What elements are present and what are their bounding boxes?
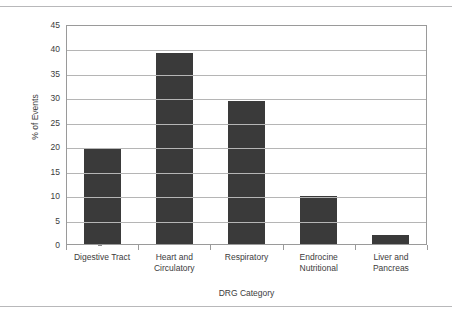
x-category-label-line: Digestive Tract [67,252,137,263]
x-axis-title: DRG Category [66,288,427,298]
gridline [67,99,426,100]
x-tick-mark [283,245,284,250]
gridline [67,75,426,76]
x-category-label-line: Liver and [356,252,426,263]
y-tick-label: 45 [36,21,60,30]
y-tick-label: 35 [36,69,60,78]
x-category-label: EndrocineNutritional [283,252,355,274]
y-tick-label: 40 [36,45,60,54]
x-category-label-line: Pancreas [356,263,426,274]
y-tick-label: 15 [36,167,60,176]
bar[interactable] [372,235,409,244]
x-tick-mark [210,245,211,250]
gridline [67,148,426,149]
x-category-label-line: Nutritional [284,263,354,274]
y-tick-label: 5 [36,216,60,225]
x-category-label: Heart andCirculatory [138,252,210,274]
x-tick-mark [66,245,67,250]
x-axis-tick-marks [66,245,427,250]
y-tick-label: 30 [36,94,60,103]
y-tick-label: 20 [36,143,60,152]
x-category-label-line: Respiratory [211,252,281,263]
x-category-label-line: Endrocine [284,252,354,263]
x-category-label-line: Heart and [139,252,209,263]
bar-slot [282,26,354,244]
bar-slot [211,26,283,244]
x-category-label: Respiratory [210,252,282,274]
x-category-label: Liver andPancreas [355,252,427,274]
x-tick-mark [427,245,428,250]
y-tick-label: 10 [36,192,60,201]
page-rule-bottom [0,306,452,307]
bar-slot [67,26,139,244]
bar-chart-figure: % of Events 051015202530354045 Digestive… [0,7,452,305]
bar-slot [139,26,211,244]
x-category-label-line: Circulatory [139,263,209,274]
gridline [67,173,426,174]
x-axis-category-labels: Digestive TractHeart andCirculatoryRespi… [66,252,427,274]
x-tick-mark [355,245,356,250]
bar-slot [354,26,426,244]
x-category-label: Digestive Tract [66,252,138,274]
plot-area [66,25,427,245]
gridline [67,124,426,125]
y-axis-tick-labels: 051015202530354045 [36,25,60,245]
y-tick-label: 0 [36,241,60,250]
bar-series [67,26,426,244]
gridline [67,50,426,51]
x-tick-mark [138,245,139,250]
y-tick-label: 25 [36,118,60,127]
gridline [67,197,426,198]
bar[interactable] [300,196,337,244]
gridline [67,222,426,223]
